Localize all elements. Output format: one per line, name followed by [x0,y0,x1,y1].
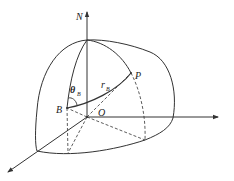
label-theta-sub: B [77,91,81,97]
label-r-sub: B [106,86,110,92]
label-r: r [101,79,105,90]
angle-marker [68,98,77,105]
point-p [130,72,132,74]
hemisphere-diagram: N P B O θ B r B [0,0,234,181]
label-b: B [56,104,62,115]
meridian-arc-p [87,40,131,73]
origin-point [86,116,88,118]
label-theta: θ [70,84,76,95]
label-north: N [75,11,84,22]
point-b [66,107,68,109]
hemisphere-outline [36,40,175,154]
dashed-construction-lines [67,73,145,153]
label-p: P [134,70,141,81]
diagonal-axis [8,117,87,172]
label-origin: O [98,107,105,118]
